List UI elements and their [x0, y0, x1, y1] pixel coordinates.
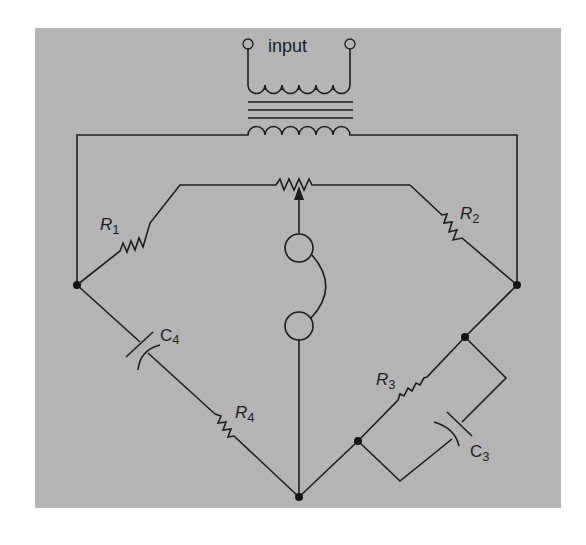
r2-label: R2 — [460, 204, 480, 226]
r1-label: R1 — [100, 215, 120, 237]
resistor-r2: R2 — [410, 185, 517, 285]
capacitor-c4: C4 — [77, 285, 215, 414]
node-right — [513, 281, 521, 289]
r4-label: R4 — [235, 403, 255, 425]
input-label: input — [268, 36, 307, 56]
node-left — [73, 281, 81, 289]
junction-nodes — [73, 281, 521, 501]
r3-label: R3 — [376, 370, 396, 392]
input-terminal-right-icon — [345, 39, 355, 49]
input-terminal-left-icon — [243, 39, 253, 49]
resistor-r4: R4 — [215, 403, 299, 497]
node-r3c3-bottom — [354, 437, 362, 445]
r3-c3-parallel: R3 C3 — [299, 285, 517, 497]
node-bottom — [295, 493, 303, 501]
transformer-icon — [77, 49, 517, 285]
node-r3c3-top — [461, 333, 469, 341]
input-terminals: input — [243, 36, 355, 56]
c3-label: C3 — [470, 442, 490, 464]
potentiometer-icon — [276, 179, 410, 234]
circuit-diagram: input R1 R2 C4 — [0, 0, 586, 545]
resistor-r1: R1 — [77, 185, 276, 285]
c4-label: C4 — [160, 326, 180, 347]
headphone-icon — [285, 234, 326, 497]
